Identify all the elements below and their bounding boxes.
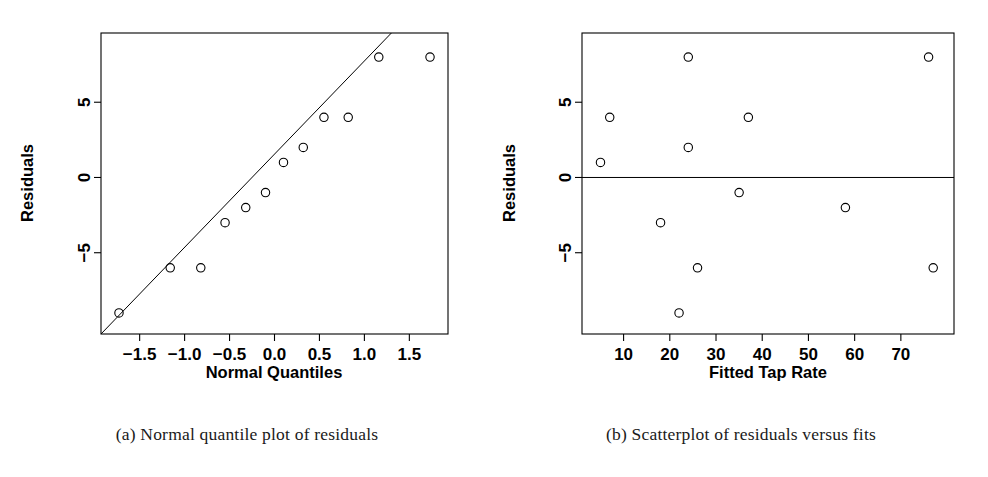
- x-tick-label: 70: [891, 345, 910, 364]
- plot-b-x-tick-marks: [624, 334, 901, 341]
- data-point: [684, 53, 692, 61]
- y-tick-label: 0: [557, 173, 576, 182]
- x-tick-label: −0.5: [213, 345, 247, 364]
- plot-b-y-tick-marks: [575, 102, 582, 253]
- data-point: [279, 158, 287, 166]
- x-tick-label: 40: [753, 345, 772, 364]
- x-tick-label: 30: [707, 345, 726, 364]
- data-point: [675, 309, 683, 317]
- data-point: [375, 53, 383, 61]
- data-point: [841, 203, 849, 211]
- caption-row: (a) Normal quantile plot of residuals (b…: [0, 404, 988, 464]
- y-tick-label: 5: [557, 97, 576, 106]
- y-tick-label: −5: [76, 243, 95, 262]
- data-point: [744, 113, 752, 121]
- plot-a-x-axis-title: Normal Quantiles: [206, 363, 343, 381]
- x-tick-label: −1.0: [168, 345, 202, 364]
- data-point: [684, 143, 692, 151]
- plot-a-y-tick-marks: [94, 102, 101, 253]
- data-point: [242, 203, 250, 211]
- x-tick-label: −1.5: [123, 345, 157, 364]
- data-point: [344, 113, 352, 121]
- caption-a: (a) Normal quantile plot of residuals: [0, 404, 494, 464]
- figure-root: −1.5−1.0−0.50.00.51.01.5 −505 Normal Qua…: [0, 0, 988, 477]
- plot-a-x-tick-marks: [140, 334, 410, 341]
- data-point: [299, 143, 307, 151]
- x-tick-label: 60: [845, 345, 864, 364]
- plot-a-data-points: [115, 53, 434, 317]
- plot-b-frame: [582, 33, 954, 334]
- plot-b-y-axis-title: Residuals: [500, 144, 518, 222]
- data-point: [924, 53, 932, 61]
- data-point: [320, 113, 328, 121]
- data-point: [656, 218, 664, 226]
- data-point: [929, 264, 937, 272]
- x-tick-label: 10: [614, 345, 633, 364]
- normal-quantile-plot-svg: −1.5−1.0−0.50.00.51.01.5 −505 Normal Qua…: [0, 0, 494, 400]
- plot-a-frame: [101, 33, 448, 334]
- x-tick-label: 50: [799, 345, 818, 364]
- data-point: [221, 218, 229, 226]
- plot-a-x-tick-labels: −1.5−1.0−0.50.00.51.01.5: [123, 345, 421, 364]
- y-tick-label: 0: [76, 173, 95, 182]
- x-tick-label: 1.5: [398, 345, 422, 364]
- x-tick-label: 0.0: [263, 345, 287, 364]
- plot-a-y-axis-title: Residuals: [18, 144, 36, 222]
- plot-a-reference-line: [101, 33, 391, 334]
- data-point: [197, 264, 205, 272]
- x-tick-label: 1.0: [353, 345, 377, 364]
- data-point: [693, 264, 701, 272]
- plot-a-y-tick-labels: −505: [76, 97, 95, 262]
- x-tick-label: 0.5: [308, 345, 332, 364]
- residuals-vs-fits-svg: 10203040506070 −505 Fitted Tap Rate Resi…: [494, 0, 988, 400]
- plot-b-x-axis-title: Fitted Tap Rate: [709, 363, 827, 381]
- reference-line: [101, 33, 391, 334]
- data-point: [166, 264, 174, 272]
- y-tick-label: 5: [76, 97, 95, 106]
- data-point: [596, 158, 604, 166]
- x-tick-label: 20: [660, 345, 679, 364]
- panel-normal-quantile-plot: −1.5−1.0−0.50.00.51.01.5 −505 Normal Qua…: [0, 0, 494, 400]
- data-point: [261, 188, 269, 196]
- data-point: [426, 53, 434, 61]
- plot-b-y-tick-labels: −505: [557, 97, 576, 262]
- plot-b-x-tick-labels: 10203040506070: [614, 345, 910, 364]
- panel-residuals-vs-fits: 10203040506070 −505 Fitted Tap Rate Resi…: [494, 0, 988, 400]
- data-point: [606, 113, 614, 121]
- plot-b-data-points: [596, 53, 937, 317]
- caption-b: (b) Scatterplot of residuals versus fits: [494, 404, 988, 464]
- data-point: [735, 188, 743, 196]
- y-tick-label: −5: [557, 243, 576, 262]
